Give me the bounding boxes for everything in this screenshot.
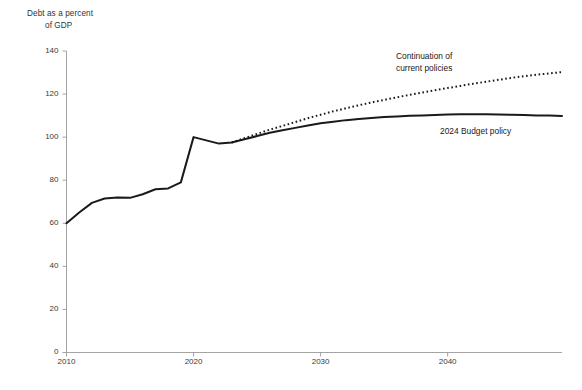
annotation-continuation-line2: current policies [396, 63, 452, 73]
data-series-group [67, 72, 563, 223]
y-tick-label: 100 [33, 132, 59, 141]
x-tick-label: 2030 [301, 357, 341, 366]
y-tick-label: 140 [33, 46, 59, 55]
tick-marks-group [63, 51, 448, 357]
y-tick-label: 40 [33, 261, 59, 270]
y-tick-label: 60 [33, 218, 59, 227]
series-line-dotted [232, 72, 562, 142]
y-tick-label: 120 [33, 89, 59, 98]
x-tick-label: 2010 [47, 357, 87, 366]
y-tick-label: 80 [33, 175, 59, 184]
annotation-continuation-line1: Continuation of [396, 51, 452, 61]
annotation-2024-budget-policy: 2024 Budget policy [440, 126, 511, 138]
x-tick-label: 2040 [428, 357, 468, 366]
y-tick-label: 20 [33, 304, 59, 313]
plot-area [0, 0, 582, 390]
axes-group [67, 51, 563, 353]
y-tick-label: 0 [33, 347, 59, 356]
x-tick-label: 2020 [174, 357, 214, 366]
annotation-continuation-of-current-policies: Continuation of current policies [396, 51, 452, 74]
chart-container: Debt as a percentof GDP 0204060801001201… [0, 0, 582, 390]
